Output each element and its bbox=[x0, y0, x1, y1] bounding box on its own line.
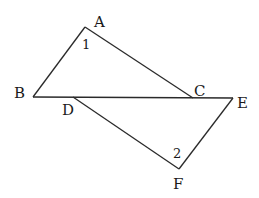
point-label-a: A bbox=[93, 13, 105, 31]
segment-ab bbox=[33, 27, 85, 97]
point-label-b: B bbox=[14, 84, 25, 102]
angle-label-1: 1 bbox=[82, 37, 90, 52]
point-label-d: D bbox=[62, 101, 74, 119]
geometry-diagram: A B C D E F 1 2 bbox=[0, 0, 259, 198]
point-label-e: E bbox=[237, 94, 248, 112]
angle-label-2: 2 bbox=[173, 146, 181, 161]
point-label-f: F bbox=[173, 175, 183, 193]
segment-ef bbox=[179, 98, 233, 169]
segment-df bbox=[73, 97, 179, 169]
point-label-c: C bbox=[194, 82, 205, 100]
segment-ac bbox=[85, 27, 193, 98]
